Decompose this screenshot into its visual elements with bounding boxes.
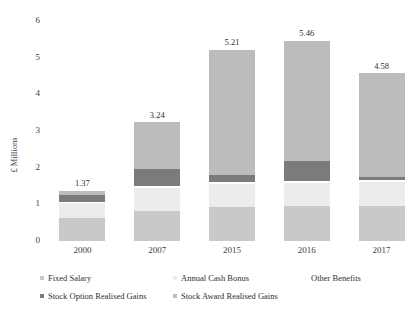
bar-value-label: 5.46 xyxy=(284,29,330,38)
bar-value-label: 4.58 xyxy=(359,62,405,71)
legend-label: Annual Cash Bonus xyxy=(181,274,249,283)
bar-segment[interactable] xyxy=(359,206,405,241)
x-axis-tick-label: 2015 xyxy=(209,246,255,255)
bar-segment[interactable] xyxy=(134,122,180,169)
bar-segment[interactable] xyxy=(134,169,180,187)
bar-stack xyxy=(359,73,405,241)
legend-label: Fixed Salary xyxy=(48,274,91,283)
legend-item[interactable]: Stock Option Realised Gains xyxy=(40,292,146,301)
bar-segment[interactable] xyxy=(209,207,255,241)
bar-stack xyxy=(209,50,255,241)
x-axis-tick-label: 2000 xyxy=(59,246,105,255)
plot-area: 1.3720003.2420075.2120155.4620164.582017 xyxy=(45,21,419,241)
bar-group[interactable]: 5.212015 xyxy=(209,21,255,241)
legend-swatch-icon xyxy=(303,276,307,280)
bar-stack xyxy=(59,191,105,241)
bar-segment[interactable] xyxy=(284,41,330,161)
bar-segment[interactable] xyxy=(134,188,180,211)
bar-group[interactable]: 1.372000 xyxy=(59,21,105,241)
bar-segment[interactable] xyxy=(209,50,255,175)
x-axis-tick-label: 2007 xyxy=(134,246,180,255)
bar-value-label: 3.24 xyxy=(134,111,180,120)
y-axis-tick-label: 2 xyxy=(20,163,40,172)
bar-stack xyxy=(134,122,180,241)
legend-label: Stock Award Realised Gains xyxy=(181,292,278,301)
bar-group[interactable]: 4.582017 xyxy=(359,21,405,241)
bar-segment[interactable] xyxy=(284,206,330,241)
legend-swatch-icon xyxy=(40,294,44,298)
legend-swatch-icon xyxy=(173,276,177,280)
bar-segment[interactable] xyxy=(134,211,180,241)
bar-segment[interactable] xyxy=(59,195,105,202)
bar-segment[interactable] xyxy=(359,73,405,177)
bar-value-label: 5.21 xyxy=(209,38,255,47)
y-axis-tick-label: 1 xyxy=(20,199,40,208)
legend-item[interactable]: Other Benefits xyxy=(303,274,361,283)
y-axis-tick-label: 0 xyxy=(20,236,40,245)
bar-stack xyxy=(284,41,330,241)
bar-segment[interactable] xyxy=(59,203,105,219)
y-axis-tick-label: 3 xyxy=(20,126,40,135)
legend-item[interactable]: Stock Award Realised Gains xyxy=(173,292,278,301)
y-axis-tick-label: 6 xyxy=(20,16,40,25)
bar-segment[interactable] xyxy=(284,183,330,206)
bar-group[interactable]: 3.242007 xyxy=(134,21,180,241)
legend-label: Other Benefits xyxy=(311,274,361,283)
bar-segment[interactable] xyxy=(209,184,255,207)
bar-value-label: 1.37 xyxy=(59,179,105,188)
legend-label: Stock Option Realised Gains xyxy=(48,292,146,301)
bar-segment[interactable] xyxy=(359,182,405,206)
legend-swatch-icon xyxy=(173,294,177,298)
stacked-bar-chart: £ Millions 0123456 1.3720003.2420075.212… xyxy=(0,0,419,316)
y-axis-title: £ Millions xyxy=(9,125,19,185)
legend-item[interactable]: Annual Cash Bonus xyxy=(173,274,249,283)
legend-item[interactable]: Fixed Salary xyxy=(40,274,91,283)
bar-segment[interactable] xyxy=(59,218,105,241)
y-axis-tick-label: 4 xyxy=(20,89,40,98)
x-axis-tick-label: 2016 xyxy=(284,246,330,255)
x-axis-tick-label: 2017 xyxy=(359,246,405,255)
bar-segment[interactable] xyxy=(284,161,330,181)
legend-swatch-icon xyxy=(40,276,44,280)
y-axis-tick-label: 5 xyxy=(20,53,40,62)
bar-group[interactable]: 5.462016 xyxy=(284,21,330,241)
chart-legend: Fixed SalaryAnnual Cash BonusOther Benef… xyxy=(40,274,415,308)
bar-segment[interactable] xyxy=(209,175,255,182)
